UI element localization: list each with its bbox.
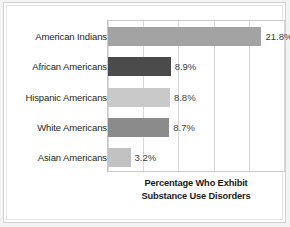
bar-value-label: 8.8% bbox=[174, 88, 196, 107]
caption-line-2: Substance Use Disorders bbox=[107, 190, 285, 203]
bar-row: Hispanic Americans8.8% bbox=[0, 88, 290, 107]
bar-2 bbox=[108, 57, 171, 76]
category-label: Asian Americans bbox=[38, 148, 107, 167]
category-label: African Americans bbox=[32, 57, 107, 76]
bar-chart: American Indians21.8%African Americans8.… bbox=[0, 0, 290, 227]
bar-3 bbox=[108, 88, 170, 107]
bar-1 bbox=[108, 27, 261, 46]
bar-value-label: 8.9% bbox=[175, 57, 197, 76]
bar-value-label: 3.2% bbox=[135, 148, 157, 167]
bar-value-label: 8.7% bbox=[173, 118, 195, 137]
bar-row: Asian Americans3.2% bbox=[0, 148, 290, 167]
caption-line-1: Percentage Who Exhibit bbox=[107, 177, 285, 190]
category-label: White Americans bbox=[37, 118, 107, 137]
figure-root: American Indians21.8%African Americans8.… bbox=[0, 0, 290, 227]
bar-row: White Americans8.7% bbox=[0, 118, 290, 137]
bar-row: American Indians21.8% bbox=[0, 27, 290, 46]
bar-4 bbox=[108, 118, 169, 137]
bar-5 bbox=[108, 148, 131, 167]
chart-caption: Percentage Who Exhibit Substance Use Dis… bbox=[107, 177, 285, 202]
bar-row: African Americans8.9% bbox=[0, 57, 290, 76]
category-label: Hispanic Americans bbox=[25, 88, 107, 107]
bar-value-label: 21.8% bbox=[265, 27, 290, 46]
category-label: American Indians bbox=[35, 27, 107, 46]
